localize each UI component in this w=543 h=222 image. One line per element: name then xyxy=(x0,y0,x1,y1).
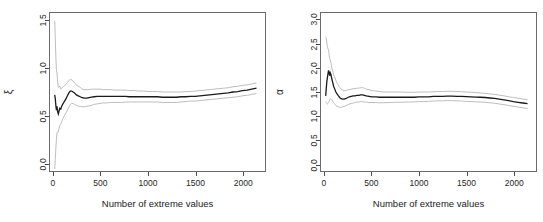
x-axis-xi: 0500100015002000 Number of extreme value… xyxy=(49,172,266,222)
plot-area-alpha xyxy=(320,12,537,172)
x-tick-label-alpha-3: 1500 xyxy=(457,179,476,188)
y-tick-label-alpha-4: 2.0 xyxy=(310,62,319,74)
panel-xi: ξ 0.00.51.01.5 0500100015002000 Number o… xyxy=(0,0,271,222)
y-axis-alpha: α 0.00.51.01.52.02.53.0 xyxy=(271,12,320,172)
y-tick-label-alpha-1: 0.5 xyxy=(310,135,319,147)
figure-container: ξ 0.00.51.01.5 0500100015002000 Number o… xyxy=(0,0,543,222)
x-tick-alpha-0 xyxy=(324,172,325,176)
x-axis-line-xi xyxy=(49,172,266,173)
y-axis-title-alpha: α xyxy=(275,89,285,95)
x-tick-label-alpha-0: 0 xyxy=(321,179,326,188)
y-tick-label-alpha-3: 1.5 xyxy=(310,86,319,98)
plot-svg-alpha xyxy=(321,13,536,171)
x-tick-label-alpha-1: 500 xyxy=(364,179,378,188)
plot-area-xi xyxy=(49,12,266,172)
x-tick-alpha-1 xyxy=(371,172,372,176)
x-tick-xi-3 xyxy=(196,172,197,176)
x-axis-title-xi: Number of extreme values xyxy=(102,198,213,209)
x-tick-label-xi-3: 1500 xyxy=(186,179,205,188)
x-axis-line-alpha xyxy=(320,172,537,173)
x-axis-alpha: 0500100015002000 Number of extreme value… xyxy=(320,172,537,222)
estimate-line-alpha xyxy=(326,70,528,103)
y-tick-label-xi-2: 1.0 xyxy=(39,62,48,74)
y-tick-label-alpha-5: 2.5 xyxy=(310,38,319,50)
y-tick-label-alpha-2: 1.0 xyxy=(310,110,319,122)
x-tick-label-xi-4: 2000 xyxy=(234,179,253,188)
y-tick-label-xi-3: 1.5 xyxy=(39,14,48,26)
x-tick-label-alpha-2: 1000 xyxy=(410,179,429,188)
y-tick-label-xi-0: 0.0 xyxy=(39,158,48,170)
panel-alpha: α 0.00.51.01.52.02.53.0 0500100015002000… xyxy=(271,0,542,222)
lower-band-line-xi xyxy=(55,93,257,169)
x-tick-label-xi-2: 1000 xyxy=(139,179,158,188)
upper-band-line-xi xyxy=(55,21,257,92)
x-tick-xi-4 xyxy=(243,172,244,176)
x-tick-alpha-4 xyxy=(514,172,515,176)
x-tick-xi-1 xyxy=(100,172,101,176)
y-tick-label-xi-1: 0.5 xyxy=(39,110,48,122)
upper-band-line-alpha xyxy=(326,37,528,100)
y-axis-xi: ξ 0.00.51.01.5 xyxy=(0,12,49,172)
x-tick-xi-0 xyxy=(53,172,54,176)
y-axis-title-xi: ξ xyxy=(4,90,14,94)
plot-svg-xi xyxy=(50,13,265,171)
x-tick-alpha-3 xyxy=(467,172,468,176)
x-tick-label-alpha-4: 2000 xyxy=(505,179,524,188)
x-tick-xi-2 xyxy=(148,172,149,176)
x-tick-label-xi-1: 500 xyxy=(93,179,107,188)
y-tick-label-alpha-6: 3.0 xyxy=(310,13,319,25)
x-axis-title-alpha: Number of extreme values xyxy=(373,198,484,209)
x-tick-alpha-2 xyxy=(419,172,420,176)
estimate-line-xi xyxy=(55,88,257,114)
x-tick-label-xi-0: 0 xyxy=(50,179,55,188)
y-tick-label-alpha-0: 0.0 xyxy=(310,159,319,171)
lower-band-line-alpha xyxy=(326,99,528,109)
